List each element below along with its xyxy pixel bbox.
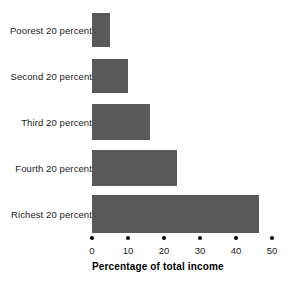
bar-third [92,104,150,140]
x-tick-30: 30 [185,236,215,256]
x-tick-label: 20 [149,245,179,256]
bar-row: Third 20 percent [0,100,291,144]
x-tick-label: 0 [77,245,107,256]
tick-dot-icon [234,236,238,240]
x-tick-label: 30 [185,245,215,256]
category-label-poorest: Poorest 20 percent [10,25,92,36]
x-tick-label: 40 [221,245,251,256]
category-label-fourth: Fourth 20 percent [15,163,92,174]
x-tick-0: 0 [77,236,107,256]
bar-row: Richest 20 percent [0,192,291,236]
x-tick-label: 50 [257,245,287,256]
tick-dot-icon [162,236,166,240]
bar-fourth [92,150,177,186]
x-tick-50: 50 [257,236,287,256]
x-tick-40: 40 [221,236,251,256]
x-tick-20: 20 [149,236,179,256]
bar-row: Fourth 20 percent [0,146,291,190]
bar-row: Poorest 20 percent [0,8,291,52]
tick-dot-icon [126,236,130,240]
x-axis-title: Percentage of total income [92,261,224,272]
tick-dot-icon [198,236,202,240]
category-label-third: Third 20 percent [21,117,92,128]
x-tick-10: 10 [113,236,143,256]
bar-chart: Poorest 20 percent Second 20 percent Thi… [0,0,291,287]
x-tick-label: 10 [113,245,143,256]
category-label-second: Second 20 percent [11,71,92,82]
bar-richest [92,195,259,233]
tick-dot-icon [90,236,94,240]
category-label-richest: Richest 20 percent [11,209,92,220]
bar-row: Second 20 percent [0,54,291,98]
x-axis: 0 10 20 30 40 50 [0,236,291,262]
tick-dot-icon [270,236,274,240]
bar-poorest [92,13,110,47]
bar-second [92,59,128,93]
